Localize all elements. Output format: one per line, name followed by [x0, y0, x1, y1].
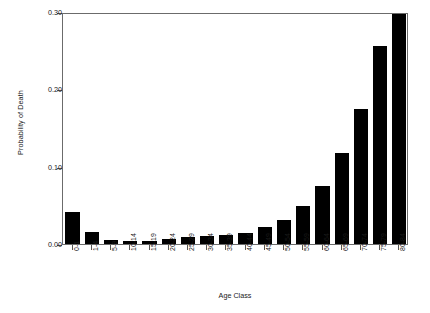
bar-chart-figure: Probability of Death 0.000.100.200.30 0-… — [0, 0, 430, 313]
x-tick-label-text: 55-59 — [302, 233, 311, 251]
x-tick-label: 45-49 — [259, 251, 269, 289]
x-tick-label: 35-39 — [220, 251, 230, 289]
x-tick-label: 70-74 — [355, 251, 365, 289]
y-tick-label: 0.00 — [28, 241, 62, 249]
x-tick-label: 40-44 — [240, 251, 250, 289]
x-tick-label-text: 50-54 — [283, 233, 292, 251]
x-tick-label: 5-9 — [105, 251, 115, 289]
x-tick-label-text: 60-64 — [322, 233, 331, 251]
x-tick-label: 60-64 — [317, 251, 327, 289]
y-axis-ticks: 0.000.100.200.30 — [22, 0, 62, 313]
bar — [335, 153, 349, 244]
plot-area — [62, 13, 408, 245]
x-tick-label-text: 35-39 — [225, 233, 234, 251]
x-tick-label: 0-1 — [67, 251, 77, 289]
bar — [65, 212, 79, 244]
x-tick-label: 20-24 — [163, 251, 173, 289]
x-tick-label-text: 1-4 — [91, 241, 100, 251]
x-axis-title: Age Class — [62, 291, 408, 301]
x-tick-label-text: 75-79 — [379, 233, 388, 251]
x-tick-label-text: 20-24 — [168, 233, 177, 251]
bar — [392, 13, 406, 244]
x-tick-label: 10-14 — [124, 251, 134, 289]
bar — [354, 109, 368, 244]
x-tick-label: 50-54 — [278, 251, 288, 289]
x-tick-label: 1-4 — [86, 251, 96, 289]
x-tick-label-text: 70-74 — [360, 233, 369, 251]
x-tick-label: 80-84 — [393, 251, 403, 289]
y-tick-label: 0.10 — [28, 164, 62, 172]
x-tick-label: 65-69 — [336, 251, 346, 289]
bar-series — [63, 14, 407, 244]
x-tick-label: 25-29 — [182, 251, 192, 289]
y-tick-label: 0.20 — [28, 86, 62, 94]
x-tick-label-text: 0-1 — [72, 241, 81, 251]
x-tick-label-text: 10-14 — [129, 233, 138, 251]
x-tick-label-text: 65-69 — [341, 233, 350, 251]
bar — [373, 46, 387, 244]
x-axis-tick-labels: 0-11-45-910-1415-1920-2425-2930-3435-394… — [62, 251, 408, 289]
x-tick-label-text: 5-9 — [110, 241, 119, 251]
x-tick-label: 30-34 — [201, 251, 211, 289]
x-tick-label: 15-19 — [144, 251, 154, 289]
x-tick-label-text: 80-84 — [398, 233, 407, 251]
x-tick-label-text: 40-44 — [245, 233, 254, 251]
x-tick-label: 55-59 — [297, 251, 307, 289]
x-tick-label: 75-79 — [374, 251, 384, 289]
x-tick-label-text: 25-29 — [187, 233, 196, 251]
y-tick-label: 0.30 — [28, 9, 62, 17]
x-tick-label-text: 15-19 — [149, 233, 158, 251]
x-tick-label-text: 30-34 — [206, 233, 215, 251]
x-tick-label-text: 45-49 — [264, 233, 273, 251]
